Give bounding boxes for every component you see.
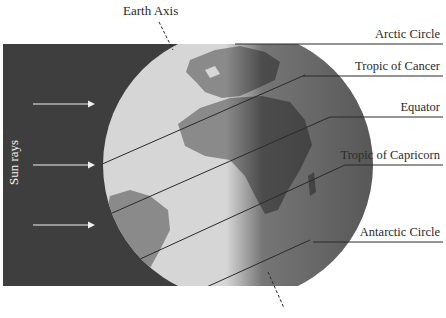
arctic-circle-label: Arctic Circle	[375, 27, 440, 42]
sun-rays-label: Sun rays	[6, 140, 22, 185]
antarctic-circle-label: Antarctic Circle	[360, 225, 440, 240]
equator-label: Equator	[400, 100, 440, 115]
tropic-of-capricorn-label: Tropic of Capricorn	[340, 148, 440, 163]
tropic-of-cancer-label: Tropic of Cancer	[355, 59, 440, 74]
earth-axis-label: Earth Axis	[123, 3, 178, 19]
